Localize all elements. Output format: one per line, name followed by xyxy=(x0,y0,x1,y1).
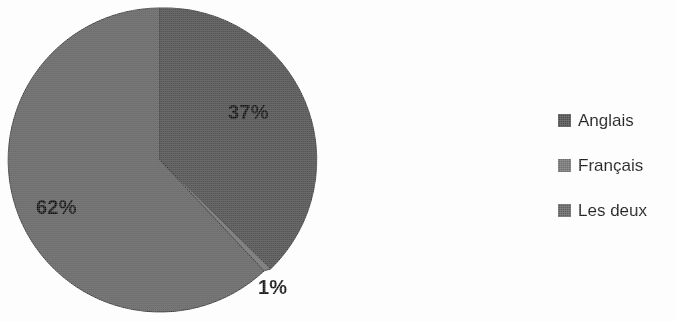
legend-label-francais: Français xyxy=(578,157,643,174)
legend-swatch-icon xyxy=(558,114,571,127)
legend-label-les-deux: Les deux xyxy=(578,202,647,219)
data-label-anglais: 37% xyxy=(228,101,269,124)
data-label-francais: 1% xyxy=(258,276,287,299)
pie-chart-svg xyxy=(0,0,340,321)
data-label-les-deux: 62% xyxy=(36,196,77,219)
legend-swatch-icon xyxy=(558,159,571,172)
chart-legend: Anglais Français Les deux xyxy=(558,98,676,233)
pie-chart-figure: 37% 62% 1% Anglais Français Les deux xyxy=(0,0,676,321)
legend-item-les-deux[interactable]: Les deux xyxy=(558,188,676,233)
legend-swatch-icon xyxy=(558,204,571,217)
legend-item-francais[interactable]: Français xyxy=(558,143,676,188)
legend-item-anglais[interactable]: Anglais xyxy=(558,98,676,143)
chart-plot-area: 37% 62% 1% xyxy=(0,0,340,321)
legend-label-anglais: Anglais xyxy=(578,112,634,129)
